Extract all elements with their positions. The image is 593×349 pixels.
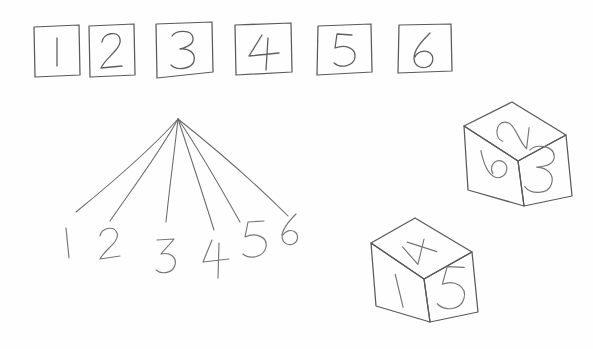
- fan-label-1: [66, 228, 69, 258]
- lower-die-right-face: [424, 252, 478, 322]
- sketch-canvas: [0, 0, 593, 349]
- upper-die-left-face: [464, 126, 524, 206]
- numbered-box-4: [235, 23, 292, 75]
- upper-die-digit-2: [494, 120, 532, 149]
- fan-branch-4: [178, 119, 214, 230]
- upper-die-right-face: [518, 135, 572, 206]
- upper-die: [464, 102, 572, 206]
- fan-label-6: [282, 214, 297, 245]
- box-outline-3: [156, 22, 213, 78]
- lower-die-digit-4: [399, 234, 439, 269]
- upper-die-top-face: [464, 102, 566, 161]
- box-outline-5: [317, 24, 372, 75]
- digit-glyph-4: [249, 35, 279, 70]
- lower-die: [371, 218, 478, 322]
- numbered-box-5: [317, 24, 372, 75]
- fan-branch-3: [166, 119, 178, 222]
- upper-die-digit-6: [473, 149, 510, 180]
- lower-die-left-face: [371, 243, 430, 322]
- digit-glyph-5: [334, 34, 355, 66]
- fan-label-4: [203, 240, 229, 278]
- lower-die-digit-5: [437, 265, 468, 310]
- box-row: [34, 22, 452, 78]
- digit-glyph-6: [414, 33, 433, 68]
- fan-branch-1: [76, 119, 178, 212]
- digit-glyph-2: [101, 34, 122, 68]
- numbered-box-3: [156, 22, 213, 78]
- fan-diagram: [66, 119, 297, 278]
- box-outline-2: [89, 24, 135, 77]
- fan-label-2: [100, 228, 120, 259]
- fan-branch-5: [178, 119, 240, 222]
- fan-label-5: [243, 221, 266, 257]
- numbered-box-1: [34, 25, 80, 77]
- numbered-box-2: [89, 24, 135, 77]
- box-outline-6: [398, 24, 452, 73]
- box-outline-4: [235, 23, 292, 75]
- lower-die-digit-1: [395, 274, 403, 308]
- fan-label-3: [156, 239, 175, 273]
- upper-die-digit-3: [524, 145, 557, 195]
- digit-glyph-3: [171, 31, 194, 68]
- numbered-box-6: [398, 24, 452, 73]
